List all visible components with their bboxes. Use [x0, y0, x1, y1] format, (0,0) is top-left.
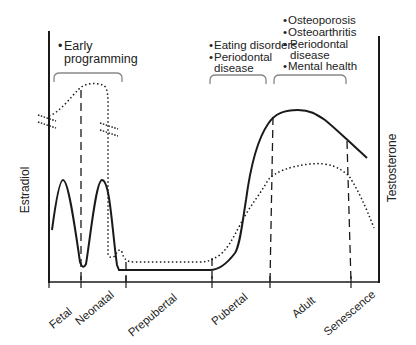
- bullet: •: [58, 39, 62, 53]
- left-axis-label: Estradiol: [18, 167, 32, 214]
- estradiol-curve: [49, 84, 374, 262]
- annotation-adult: • Osteoporosis • Osteoarthritis • Period…: [283, 14, 357, 72]
- bullet: •: [209, 51, 213, 63]
- hormone-lifespan-diagram: • Early programming • Eating disorders •…: [0, 0, 416, 345]
- bracket-adult: [274, 75, 346, 84]
- bullet: •: [283, 26, 287, 38]
- stage-label-prepubertal: Prepubertal: [126, 291, 179, 338]
- bullet: •: [283, 38, 287, 50]
- annotation-text: Mental health: [288, 60, 357, 72]
- annotation-text: Osteoarthritis: [288, 26, 357, 38]
- stage-label-pubertal: Pubertal: [209, 291, 250, 328]
- axis-break-left: [38, 115, 56, 128]
- bullet: •: [283, 60, 287, 72]
- bracket-pubertal: [210, 75, 266, 84]
- axis-break-neonatal: [100, 123, 118, 136]
- bracket-early: [54, 73, 122, 82]
- annotation-text: Early: [64, 39, 93, 53]
- bullet: •: [283, 14, 287, 26]
- stage-label-senescence: Senescence: [321, 288, 377, 338]
- annotation-text: Osteoporosis: [288, 14, 356, 26]
- bullet: •: [209, 39, 213, 51]
- annotation-text: programming: [64, 52, 138, 66]
- stage-label-adult: Adult: [290, 293, 318, 320]
- stage-label-neonatal: Neonatal: [73, 289, 116, 328]
- annotation-text: disease: [214, 62, 254, 74]
- stage-label-fetal: Fetal: [47, 305, 74, 331]
- testosterone-curve: [52, 110, 367, 270]
- stage-dividers: [81, 90, 351, 282]
- right-axis-label: Testosterone: [385, 133, 399, 202]
- annotation-early-programming: • Early programming: [58, 39, 138, 66]
